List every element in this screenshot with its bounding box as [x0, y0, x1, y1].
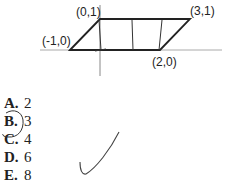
point-label-2-0: (2,0) [152, 55, 177, 69]
choice-letter: A. [4, 94, 24, 112]
choice-value: 6 [24, 149, 32, 165]
checkmark-icon [80, 132, 119, 174]
parallelogram [70, 19, 190, 50]
choice-b[interactable]: B.3 [4, 112, 32, 130]
choice-letter: B. [4, 112, 24, 130]
choice-value: 4 [24, 131, 32, 147]
choice-value: 2 [24, 95, 32, 111]
choice-letter: D. [4, 148, 24, 166]
point-label-neg1-0: (-1,0) [42, 34, 71, 48]
choice-value: 3 [24, 113, 32, 129]
choice-c[interactable]: C.4 [4, 130, 32, 148]
point-label-0-1: (0,1) [76, 5, 101, 19]
answer-choices: A.2 B.3 C.4 D.6 E.8 [4, 94, 32, 184]
choice-value: 8 [24, 167, 32, 183]
choice-d[interactable]: D.6 [4, 148, 32, 166]
choice-letter: C. [4, 130, 24, 148]
choice-letter: E. [4, 166, 24, 184]
point-label-3-1: (3,1) [190, 4, 215, 18]
choice-a[interactable]: A.2 [4, 94, 32, 112]
handdrawn-vertical-2 [132, 20, 133, 50]
choice-e[interactable]: E.8 [4, 166, 32, 184]
handdrawn-vertical-3 [159, 20, 162, 50]
